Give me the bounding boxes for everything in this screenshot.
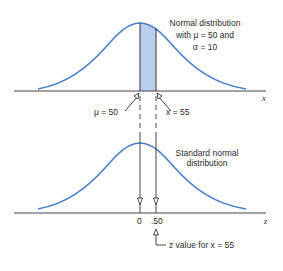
bottom-title-line1: Standard normal — [172, 148, 242, 158]
top-title-line2: with μ = 50 and — [165, 30, 245, 40]
down-arrow-zero-icon — [138, 198, 143, 205]
top-title-line1: Normal distribution — [165, 18, 245, 28]
mean-label: μ = 50 — [94, 107, 118, 117]
down-arrow-z50-icon — [154, 198, 159, 205]
z-value-annotation: z value for x = 55 — [169, 240, 234, 250]
top-axis-label: x — [262, 93, 266, 103]
diagram-canvas — [0, 0, 283, 271]
bottom-title-line2: distribution — [172, 158, 242, 168]
z-value-pointer — [154, 229, 167, 245]
top-title-line3: σ = 10 — [165, 42, 245, 52]
tick-label-z50: .50 — [151, 216, 163, 226]
shaded-area — [140, 23, 156, 91]
mean-pointer-arrow — [125, 93, 139, 111]
x55-label: x = 55 — [166, 107, 189, 117]
tick-label-zero: 0 — [137, 216, 142, 226]
bottom-axis-label: z — [264, 216, 267, 226]
